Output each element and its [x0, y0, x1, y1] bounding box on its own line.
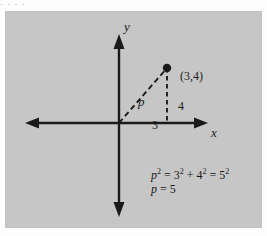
pythagorean-figure: · · · · y x (3,4) p 3 4 [0, 0, 267, 236]
equation-equals-1: = [161, 168, 174, 182]
equation-solution-equals: = [157, 182, 170, 196]
x-axis-left-arrow-icon [25, 118, 39, 129]
x-axis-label: x [211, 125, 217, 141]
x-axis-right-arrow-icon [194, 118, 208, 129]
equation-solution-value: 5 [170, 182, 176, 196]
hypotenuse-length-label: p [138, 94, 145, 110]
equation-line-1: p2 = 32 + 42 = 52 [151, 168, 229, 182]
y-axis-label: y [124, 19, 130, 35]
plotted-point-marker [163, 64, 171, 72]
point-coordinate-label: (3,4) [180, 69, 203, 84]
horizontal-leg-length-label: 3 [152, 118, 158, 133]
figure-panel: y x (3,4) p 3 4 p2 = 32 + 42 = 52 p = 5 [5, 11, 262, 228]
equation-result-exponent: 2 [225, 167, 229, 176]
vertical-leg-length-label: 4 [178, 99, 184, 114]
equation-equals-2: = [207, 168, 220, 182]
y-axis-down-arrow-icon [114, 202, 125, 217]
equation-plus-sign: + [184, 168, 197, 182]
cropped-page-text-fragment: · · · · [0, 0, 46, 8]
y-axis-up-arrow-icon [114, 34, 125, 49]
equation-line-2: p = 5 [151, 182, 229, 196]
equation-block: p2 = 32 + 42 = 52 p = 5 [151, 168, 229, 196]
